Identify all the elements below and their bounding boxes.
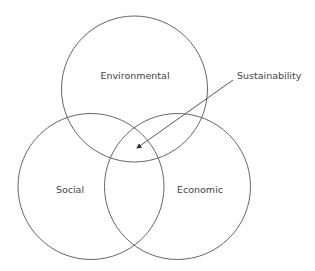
label-economic: Economic [177, 184, 223, 195]
sustainability-arrow [137, 80, 233, 148]
label-sustainability: Sustainability [237, 70, 302, 81]
circle-social [18, 114, 164, 260]
circle-environmental [62, 16, 208, 162]
label-environmental: Environmental [100, 70, 169, 81]
label-social: Social [56, 184, 84, 195]
venn-diagram: Environmental Social Economic Sustainabi… [0, 0, 315, 271]
